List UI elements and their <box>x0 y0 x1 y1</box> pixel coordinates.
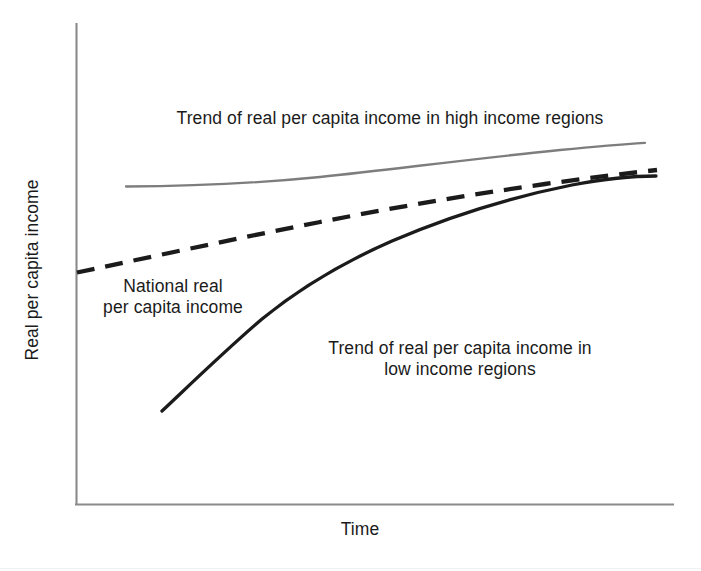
y-axis-label: Real per capita income <box>22 120 52 420</box>
annotation-national: National real per capita income <box>78 276 268 319</box>
x-axis-label: Time <box>300 519 420 540</box>
annotation-high-income: Trend of real per capita income in high … <box>140 108 640 129</box>
page-bottom-rule <box>0 568 701 569</box>
chart-figure: Trend of real per capita income in high … <box>0 0 701 571</box>
annotation-low-income: Trend of real per capita income in low i… <box>300 338 620 381</box>
